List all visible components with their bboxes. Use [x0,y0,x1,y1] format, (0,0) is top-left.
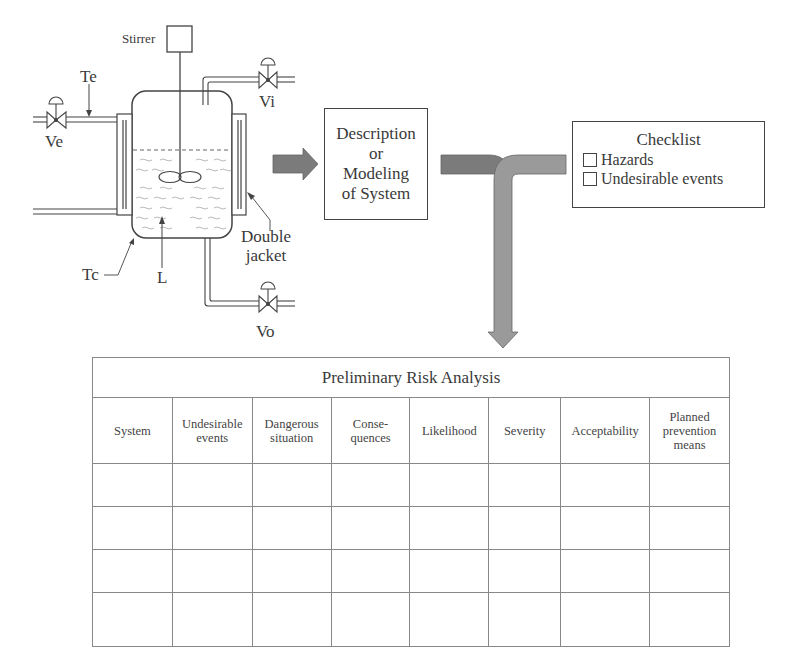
valve-vo-icon [259,282,277,312]
liquid-waves [136,159,232,229]
column-header-dangerous-situation: Dangeroussituation [252,398,331,464]
label-stirrer: Stirrer [122,31,155,47]
table-row [93,464,730,507]
table-cell[interactable] [561,593,650,647]
label-vi: Vi [259,92,275,112]
table-cell[interactable] [561,550,650,593]
table-cell[interactable] [650,550,730,593]
t-connector-arrow-icon [441,155,566,348]
description-line-1: Description [336,124,415,144]
column-header-undesirable-events: Undesirableevents [172,398,252,464]
te-pipe [33,117,117,122]
table-cell[interactable] [561,464,650,507]
left-jacket [117,114,132,215]
column-header-severity: Severity [489,398,561,464]
table-cell[interactable] [410,507,489,550]
table-cell[interactable] [331,550,410,593]
table-cell[interactable] [93,464,173,507]
right-jacket [232,114,246,215]
label-double-jacket: Double jacket [241,227,291,265]
checklist-box: Checklist Hazards Undesirable events [572,121,765,208]
description-line-4: of System [336,184,415,204]
label-te: Te [80,67,97,87]
table-cell[interactable] [489,550,561,593]
table-cell[interactable] [172,550,252,593]
table-row [93,507,730,550]
column-header-consequences: Conse-quences [331,398,410,464]
jacket-outlet-pipe [33,209,117,214]
column-header-planned-prevention-means: Plannedpreventionmeans [650,398,730,464]
tc-arrow-icon [104,238,134,275]
label-l: L [157,268,167,288]
label-double-jacket-line2: jacket [241,246,291,265]
table-cell[interactable] [561,507,650,550]
table-cell[interactable] [650,593,730,647]
table-cell[interactable] [489,464,561,507]
table-cell[interactable] [252,464,331,507]
te-arrow-icon [86,84,92,117]
description-box: Description or Modeling of System [324,108,428,220]
l-arrow-icon [159,216,165,268]
stirrer-motor-box [167,26,192,52]
table-cell[interactable] [172,464,252,507]
description-line-3: Modeling [336,164,415,184]
table-cell[interactable] [410,593,489,647]
checklist-item-undesirable-events: Undesirable events [573,169,764,188]
label-double-jacket-line1: Double [241,227,291,246]
table-cell[interactable] [331,507,410,550]
table-cell[interactable] [252,593,331,647]
preliminary-risk-analysis-table: Preliminary Risk Analysis System Undesir… [92,357,730,647]
reactor-vessel [132,91,232,238]
table-cell[interactable] [410,550,489,593]
table-cell[interactable] [252,507,331,550]
table-cell[interactable] [410,464,489,507]
double-jacket-arrow-icon [247,192,270,231]
valve-vi-icon [259,58,277,88]
checklist-item-label: Hazards [601,150,653,169]
checklist-item-hazards: Hazards [573,150,764,169]
checklist-item-label: Undesirable events [601,169,723,188]
table-cell[interactable] [172,507,252,550]
table-cell[interactable] [650,464,730,507]
checklist-title: Checklist [573,130,764,150]
table-cell[interactable] [93,550,173,593]
checkbox-hazards[interactable] [583,153,597,167]
description-line-2: or [336,144,415,164]
column-header-likelihood: Likelihood [410,398,489,464]
column-header-acceptability: Acceptability [561,398,650,464]
label-ve: Ve [45,132,63,152]
table-cell[interactable] [252,550,331,593]
table-cell[interactable] [93,593,173,647]
table-header-row: System Undesirableevents Dangeroussituat… [93,398,730,464]
table-cell[interactable] [331,593,410,647]
table-cell[interactable] [650,507,730,550]
table-title: Preliminary Risk Analysis [93,358,730,398]
table-cell[interactable] [93,507,173,550]
table-row [93,593,730,647]
table-row [93,550,730,593]
table-cell[interactable] [489,507,561,550]
valve-ve-icon [47,97,66,128]
table-cell[interactable] [172,593,252,647]
table-cell[interactable] [331,464,410,507]
label-vo: Vo [256,322,275,342]
table-cell[interactable] [489,593,561,647]
label-tc: Tc [82,265,99,285]
checkbox-undesirable-events[interactable] [583,172,597,186]
column-header-system: System [93,398,173,464]
arrow-to-description-icon [273,148,318,180]
